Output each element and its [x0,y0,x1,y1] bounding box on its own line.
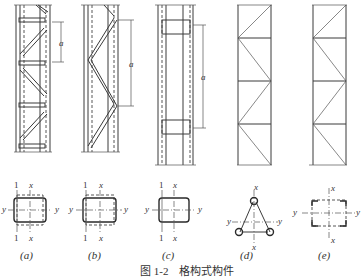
column-c-elevation [155,5,206,165]
section-b [76,190,122,232]
axis-x-top-b: x [99,181,103,190]
axis-y-right-e: y [356,208,360,217]
column-b-elevation [81,5,134,152]
axis-x-bottom-c: x [173,234,177,243]
axis-1-top-c: 1 [159,181,164,190]
axis-y-left-a: y [2,205,6,214]
axis-1-bottom-b: 1 [83,234,88,243]
subfigure-label-b: (b) [88,250,101,261]
axis-x-top-e: x [331,184,335,193]
subfigure-label-c: (c) [162,250,174,261]
section-c [152,190,196,232]
subfigure-label-d: (d) [240,250,253,261]
dimension-a-label-c: a [201,73,206,82]
axis-1-bottom-a: 1 [14,234,19,243]
section-e [302,188,356,238]
axis-y-left-c: y [145,205,149,214]
section-d [232,190,278,244]
axis-x-bottom-b: x [99,234,103,243]
axis-1-top-b: 1 [83,181,88,190]
subfigure-label-e: (e) [318,250,330,261]
axis-x-top-d: x [254,183,258,192]
axis-x-top-c: x [173,181,177,190]
column-a-elevation [14,5,64,152]
axis-1-bottom-c: 1 [159,234,164,243]
axis-y-right-b: y [124,205,128,214]
axis-y-left-b: y [69,205,73,214]
section-a [8,190,52,232]
axis-y-right-a: y [55,205,59,214]
axis-y-left-d: y [227,217,231,226]
dimension-a-label-a: a [59,39,64,48]
subfigure-label-a: (a) [20,250,33,261]
axis-y-left-e: y [293,208,297,217]
axis-1-top-a: 1 [14,181,19,190]
axis-x-top-a: x [29,181,33,190]
column-e-elevation [309,5,347,165]
axis-x-bottom-a: x [29,234,33,243]
axis-y-right-c: y [198,205,202,214]
dimension-a-label-b: a [129,60,134,69]
figure-caption: 图 1-2 格构式构件 [140,266,234,277]
column-d-elevation [237,5,272,165]
axis-y-right-d: y [278,217,282,226]
axis-x-bottom-e: x [331,236,335,245]
